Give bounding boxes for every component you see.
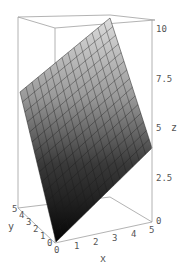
y-tick-2: 2 xyxy=(33,224,38,234)
z-tick-10: 10 xyxy=(156,24,167,34)
y-tick-1: 1 xyxy=(40,231,45,241)
z-tick-7.5: 7.5 xyxy=(156,74,172,84)
x-tick-5: 5 xyxy=(149,225,154,235)
y-tick-4: 4 xyxy=(19,210,24,220)
x-tick-4: 4 xyxy=(131,229,136,239)
z-tick-0: 0 xyxy=(156,216,161,226)
x-tick-0: 0 xyxy=(54,245,59,255)
surface-plot-3d: 10 7.5 5 z 2.5 0 0 1 2 3 4 5 x 0 1 2 3 4… xyxy=(0,0,189,272)
y-tick-3: 3 xyxy=(26,217,31,227)
x-tick-2: 2 xyxy=(93,237,98,247)
z-tick-2.5: 2.5 xyxy=(156,173,172,183)
y-axis-label: y xyxy=(8,221,14,232)
x-tick-1: 1 xyxy=(74,241,79,251)
y-tick-5: 5 xyxy=(12,204,17,214)
y-axis: 0 1 2 3 4 5 y xyxy=(8,204,52,248)
x-axis-label: x xyxy=(100,253,106,264)
x-axis: 0 1 2 3 4 5 x xyxy=(54,225,154,264)
y-tick-0: 0 xyxy=(47,238,52,248)
surface-plane xyxy=(20,18,152,242)
z-axis: 10 7.5 5 z 2.5 0 xyxy=(156,24,177,226)
z-axis-label: z xyxy=(171,122,177,133)
x-tick-3: 3 xyxy=(112,233,117,243)
z-tick-5: 5 xyxy=(156,123,161,133)
